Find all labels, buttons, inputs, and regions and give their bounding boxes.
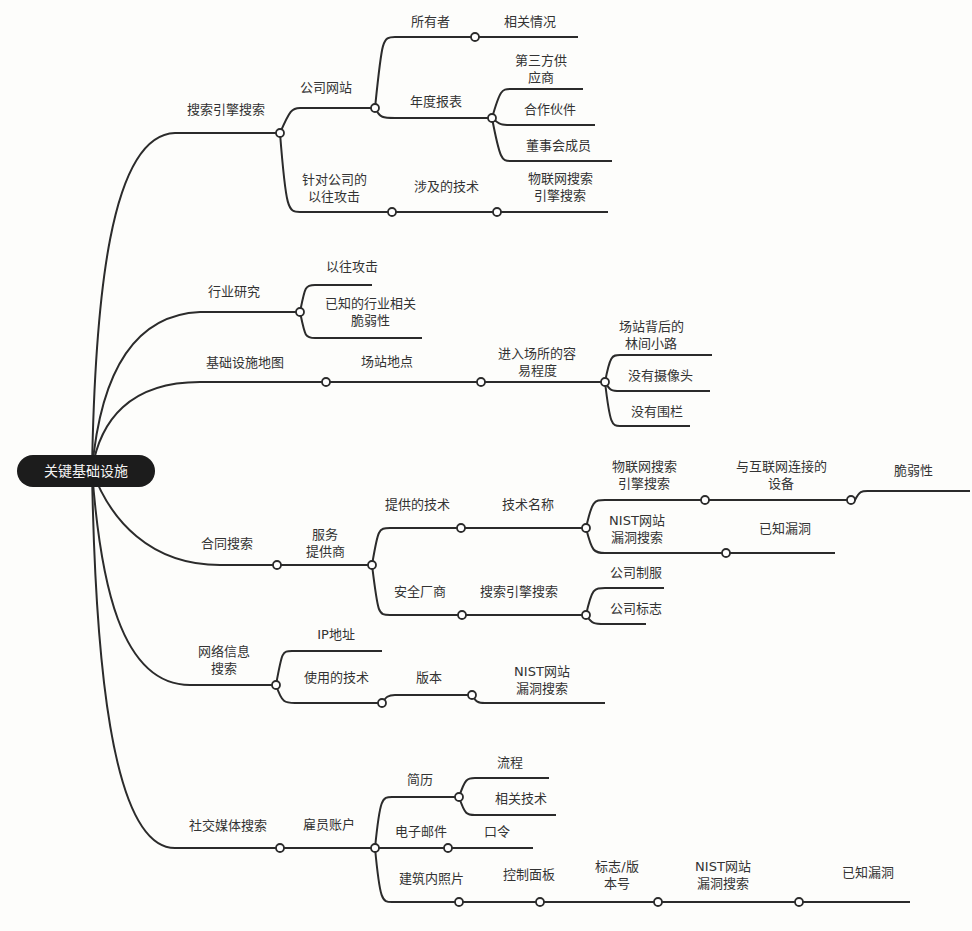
node-version[interactable]: 版本 [416,669,442,686]
node-employee-accounts[interactable]: 雇员账户 [303,816,355,833]
node-search-engine-2[interactable]: 搜索引擎搜索 [480,583,558,600]
node-social-media-search[interactable]: 社交媒体搜索 [189,817,267,834]
node-building-photos[interactable]: 建筑内照片 [399,870,464,887]
node-related-info[interactable]: 相关情况 [504,13,556,30]
node-past-attacks[interactable]: 以往攻击 [326,258,378,275]
node-owner[interactable]: 所有者 [411,13,450,30]
node-iot-search-engine-2[interactable]: 物联网搜索 引擎搜索 [612,458,677,492]
node-past-attacks-on-company[interactable]: 针对公司的 以往攻击 [302,171,367,205]
node-annual-report[interactable]: 年度报表 [410,93,462,110]
node-iot-search-engine[interactable]: 物联网搜索 引擎搜索 [528,170,593,204]
node-company-uniform[interactable]: 公司制服 [610,564,662,581]
node-vulnerabilities[interactable]: 脆弱性 [894,462,933,479]
node-techniques-involved[interactable]: 涉及的技术 [414,178,479,195]
node-logo-version[interactable]: 标志/版 本号 [595,858,638,892]
node-password[interactable]: 口令 [484,823,510,840]
node-contract-search[interactable]: 合同搜索 [201,535,253,552]
node-industry-research[interactable]: 行业研究 [208,283,260,300]
node-nist-vuln-search-3[interactable]: NIST网站 漏洞搜索 [695,858,751,892]
node-ip-address[interactable]: IP地址 [317,626,355,643]
root-node[interactable]: 关键基础设施 [17,455,155,487]
node-board-members[interactable]: 董事会成员 [526,137,591,154]
node-partners[interactable]: 合作伙件 [524,101,576,118]
node-nist-vuln-search-2[interactable]: NIST网站 漏洞搜索 [514,663,570,697]
node-related-technology[interactable]: 相关技术 [495,790,547,807]
node-infrastructure-map[interactable]: 基础设施地图 [206,354,284,371]
node-security-vendor[interactable]: 安全厂商 [394,583,446,600]
node-technology-used[interactable]: 使用的技术 [304,669,369,686]
node-site-location[interactable]: 场站地点 [361,353,413,370]
node-nist-vuln-search[interactable]: NIST网站 漏洞搜索 [609,512,665,546]
node-provided-technology[interactable]: 提供的技术 [385,496,450,513]
node-company-logo[interactable]: 公司标志 [610,600,662,617]
node-search-engine[interactable]: 搜索引擎搜索 [187,101,265,118]
node-network-info-search[interactable]: 网络信息 搜索 [198,643,250,677]
node-control-panel[interactable]: 控制面板 [503,866,555,883]
node-site-access-ease[interactable]: 进入场所的容 易程度 [498,345,576,379]
node-no-cameras[interactable]: 没有摄像头 [628,367,693,384]
node-service-provider[interactable]: 服务 提供商 [306,526,345,560]
node-company-website[interactable]: 公司网站 [300,79,352,96]
node-internet-connected-devices[interactable]: 与互联网连接的 设备 [736,458,827,492]
node-third-party-supplier[interactable]: 第三方供 应商 [515,52,567,86]
node-no-fence[interactable]: 没有围栏 [631,403,683,420]
node-process[interactable]: 流程 [497,754,523,771]
node-known-vulnerabilities[interactable]: 已知漏洞 [759,520,811,537]
node-resume[interactable]: 简历 [407,771,433,788]
node-known-vulnerabilities-2[interactable]: 已知漏洞 [842,864,894,881]
node-email[interactable]: 电子邮件 [395,823,447,840]
node-technology-name[interactable]: 技术名称 [502,496,554,513]
node-woodland-path[interactable]: 场站背后的 林间小路 [619,318,684,352]
node-known-industry-vulnerabilities[interactable]: 已知的行业相关 脆弱性 [325,295,416,329]
mind-map: 关键基础设施 搜索引擎搜索 公司网站 所有者 相关情况 年度报表 第三方供 应商… [0,0,972,931]
